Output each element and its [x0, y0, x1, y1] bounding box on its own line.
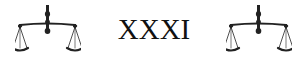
scales-of-justice-icon [15, 4, 81, 54]
chapter-numeral: XXXI [100, 11, 208, 47]
scales-of-justice-icon [226, 4, 292, 54]
